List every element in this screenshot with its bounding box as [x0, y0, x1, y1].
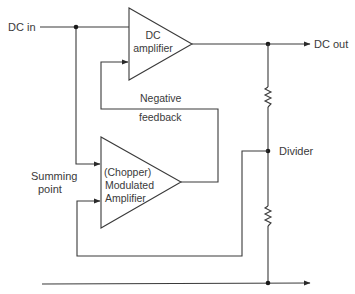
negative-feedback-label-2: feedback	[139, 111, 182, 123]
dc-out-label: DC out	[314, 38, 348, 50]
chopper-amplifier-diagram: DC in DC out DC amplifier Negative feedb…	[0, 0, 355, 294]
dc-in-branch-wire	[76, 27, 100, 164]
dc-amplifier-label-1: DC	[145, 29, 161, 41]
dc-in-junction	[74, 25, 79, 30]
dc-in-label: DC in	[8, 21, 36, 33]
dc-amplifier-label-2: amplifier	[133, 42, 173, 54]
chopper-label-1: (Chopper)	[104, 166, 151, 178]
summing-point-label-2: point	[38, 183, 62, 195]
divider-label: Divider	[279, 145, 314, 157]
resistor-lower-icon	[265, 206, 271, 226]
chopper-label-3: Amplifier	[105, 192, 146, 204]
resistor-upper-icon	[265, 87, 271, 107]
ground-junction	[266, 281, 271, 286]
summing-point-label-1: Summing	[31, 170, 77, 182]
negative-feedback-label-1: Negative	[140, 92, 182, 104]
chopper-label-2: Modulated	[105, 179, 154, 191]
